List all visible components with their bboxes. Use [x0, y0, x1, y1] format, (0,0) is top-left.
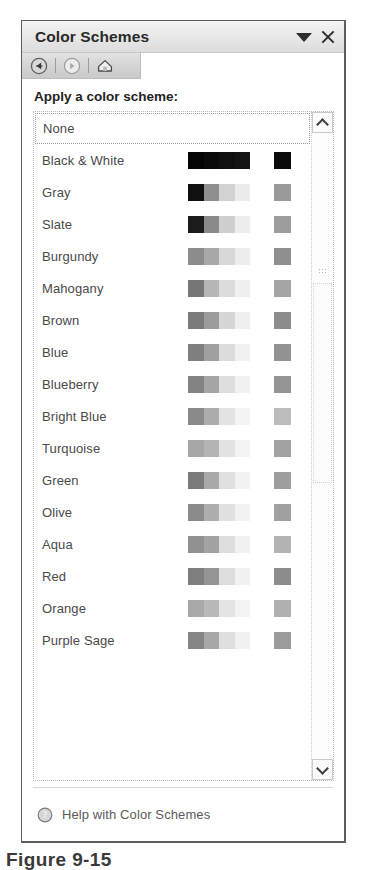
task-pane-body: Apply a color scheme: NoneBlack & WhiteG… — [22, 79, 344, 781]
swatch-segment — [188, 312, 204, 329]
scheme-row[interactable]: Aqua — [34, 528, 311, 560]
scheme-swatch-strip — [188, 536, 250, 553]
scheme-swatch-strip — [188, 568, 250, 585]
swatch-segment — [188, 280, 204, 297]
swatch-segment — [235, 216, 251, 233]
back-arrow-icon[interactable] — [26, 55, 52, 77]
swatch-segment — [188, 344, 204, 361]
swatch-segment — [219, 216, 235, 233]
scheme-row[interactable]: Turquoise — [34, 432, 311, 464]
scheme-swatches — [188, 600, 305, 617]
scheme-row[interactable]: Slate — [34, 208, 311, 240]
list-scrollbar[interactable] — [311, 112, 333, 780]
scheme-swatch-strip — [188, 376, 250, 393]
swatch-segment — [219, 152, 235, 169]
home-icon[interactable] — [92, 55, 118, 77]
grip-dots-icon — [318, 268, 326, 273]
scheme-label: Gray — [42, 185, 71, 200]
scheme-row[interactable]: Mahogany — [34, 272, 311, 304]
scheme-row[interactable]: Burgundy — [34, 240, 311, 272]
swatch-segment — [204, 184, 220, 201]
task-pane-footer: ? Help with Color Schemes — [33, 787, 334, 841]
swatch-segment — [188, 504, 204, 521]
swatch-segment — [188, 600, 204, 617]
forward-arrow-icon[interactable] — [59, 55, 85, 77]
scheme-label: Red — [42, 569, 66, 584]
scheme-row[interactable]: Blueberry — [34, 368, 311, 400]
scheme-row[interactable]: Brown — [34, 304, 311, 336]
scrollbar-thumb[interactable] — [313, 283, 332, 483]
close-icon[interactable] — [321, 30, 335, 44]
scheme-swatch-strip — [188, 312, 250, 329]
swatch-segment — [204, 216, 220, 233]
scheme-label: Mahogany — [42, 281, 104, 296]
scheme-label: Slate — [42, 217, 72, 232]
swatch-segment — [204, 376, 220, 393]
scheme-label: Aqua — [42, 537, 73, 552]
swatch-segment — [188, 408, 204, 425]
swatch-segment — [188, 152, 204, 169]
scheme-row[interactable]: Bright Blue — [34, 400, 311, 432]
scheme-row[interactable]: Black & White — [34, 144, 311, 176]
scheme-swatches — [188, 440, 305, 457]
scheme-swatches — [188, 536, 305, 553]
scheme-row[interactable]: Blue — [34, 336, 311, 368]
scheme-swatch-strip — [188, 216, 250, 233]
swatch-segment — [204, 280, 220, 297]
scheme-row[interactable]: Orange — [34, 592, 311, 624]
scheme-accent-swatch — [274, 248, 291, 265]
swatch-segment — [219, 600, 235, 617]
navbar-separator-1 — [55, 58, 56, 73]
scheme-accent-swatch — [274, 184, 291, 201]
swatch-segment — [235, 600, 251, 617]
swatch-segment — [204, 408, 220, 425]
scheme-row[interactable]: Purple Sage — [34, 624, 311, 656]
swatch-segment — [235, 184, 251, 201]
swatch-segment — [204, 248, 220, 265]
scheme-swatches — [188, 216, 305, 233]
scheme-accent-swatch — [274, 632, 291, 649]
scheme-swatches — [188, 344, 305, 361]
scrollbar-track[interactable] — [312, 133, 333, 759]
scheme-label: Green — [42, 473, 79, 488]
scheme-accent-swatch — [274, 152, 291, 169]
titlebar-actions — [296, 30, 344, 44]
scheme-row[interactable]: Gray — [34, 176, 311, 208]
scheme-row[interactable]: Olive — [34, 496, 311, 528]
scheme-accent-swatch — [274, 312, 291, 329]
scheme-row[interactable]: Green — [34, 464, 311, 496]
swatch-segment — [188, 440, 204, 457]
scheme-accent-swatch — [274, 536, 291, 553]
scrollbar-up-button[interactable] — [312, 112, 333, 133]
scheme-swatch-strip — [188, 472, 250, 489]
swatch-segment — [219, 344, 235, 361]
swatch-segment — [219, 280, 235, 297]
help-with-color-schemes-link[interactable]: Help with Color Schemes — [62, 807, 210, 822]
swatch-segment — [188, 216, 204, 233]
scheme-swatches — [188, 312, 305, 329]
swatch-segment — [219, 376, 235, 393]
scheme-accent-swatch — [274, 504, 291, 521]
swatch-segment — [188, 536, 204, 553]
scheme-label: Turquoise — [42, 441, 100, 456]
swatch-segment — [204, 440, 220, 457]
color-scheme-list-container: NoneBlack & WhiteGraySlateBurgundyMahoga… — [33, 111, 334, 781]
scheme-swatch-strip — [188, 504, 250, 521]
swatch-segment — [219, 536, 235, 553]
scheme-row[interactable]: None — [35, 113, 310, 144]
swatch-segment — [204, 600, 220, 617]
swatch-segment — [235, 248, 251, 265]
swatch-segment — [235, 376, 251, 393]
color-scheme-list[interactable]: NoneBlack & WhiteGraySlateBurgundyMahoga… — [34, 112, 311, 780]
scheme-row[interactable]: Red — [34, 560, 311, 592]
swatch-segment — [219, 504, 235, 521]
scheme-swatches — [188, 568, 305, 585]
scheme-swatches — [188, 376, 305, 393]
triangle-down-icon[interactable] — [296, 33, 312, 42]
scheme-accent-swatch — [274, 472, 291, 489]
swatch-segment — [188, 632, 204, 649]
scrollbar-down-button[interactable] — [312, 759, 333, 780]
swatch-segment — [188, 376, 204, 393]
swatch-segment — [204, 504, 220, 521]
scheme-label: Burgundy — [42, 249, 98, 264]
